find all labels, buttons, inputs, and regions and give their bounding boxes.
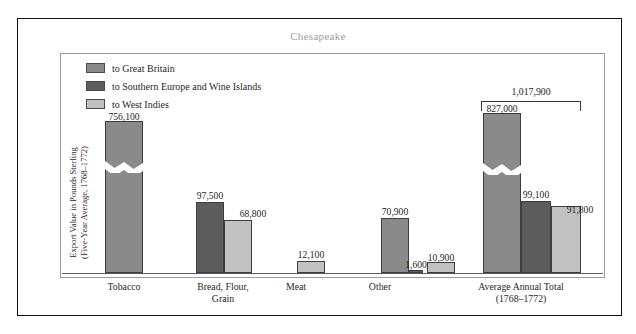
- x-axis-baseline: [62, 273, 603, 274]
- value-label-bread-west-indies: 68,800: [226, 208, 280, 219]
- value-label-other-great-britain: 70,900: [368, 206, 422, 217]
- chart-title: Chesapeake: [0, 30, 636, 42]
- category-label-tobacco: Tobacco: [74, 281, 174, 293]
- bar-total-southern-europe: [521, 201, 551, 273]
- category-label-other: Other: [330, 281, 430, 293]
- value-label-tobacco-great-britain: 756,100: [94, 111, 154, 122]
- bar-bread-west-indies: [224, 220, 252, 273]
- value-label-total-west-indies: 91,800: [553, 204, 607, 215]
- scale-break-icon: [105, 160, 143, 173]
- scale-break-icon: [483, 162, 521, 175]
- bracket-left-tick: [481, 101, 482, 111]
- bar-other-west-indies: [427, 262, 455, 273]
- bar-bread-southern-europe: [196, 202, 224, 273]
- grand-total-bracket: [481, 101, 581, 111]
- grand-total-value: 1,017,900: [481, 86, 581, 97]
- bracket-top-rule: [481, 101, 581, 102]
- value-label-meat-west-indies: 12,100: [284, 249, 338, 260]
- bracket-right-tick: [580, 101, 581, 111]
- bar-tobacco-great-britain: [105, 121, 143, 273]
- bar-meat-west-indies: [297, 261, 325, 273]
- value-label-bread-southern-europe: 97,500: [183, 190, 237, 201]
- bar-total-west-indies: [551, 206, 581, 273]
- value-label-other-west-indies: 10,900: [414, 252, 468, 263]
- value-label-total-southern-europe: 99,100: [509, 189, 563, 200]
- category-label-average-annual-total: Average Annual Total (1768–1772): [459, 281, 583, 304]
